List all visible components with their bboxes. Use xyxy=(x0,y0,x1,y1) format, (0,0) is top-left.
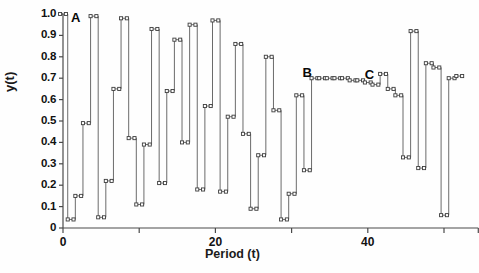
data-point-marker xyxy=(234,42,237,45)
data-point-marker xyxy=(272,109,275,112)
data-point-marker xyxy=(249,207,252,210)
data-point-marker xyxy=(158,182,161,185)
y-axis-tick-label: 0.3 xyxy=(16,157,56,169)
data-point-marker xyxy=(118,87,121,90)
data-point-marker xyxy=(240,42,243,45)
data-point-marker xyxy=(432,66,435,69)
data-point-marker xyxy=(340,77,343,80)
data-point-marker xyxy=(278,109,281,112)
data-point-marker xyxy=(203,104,206,107)
data-point-marker xyxy=(400,94,403,97)
data-point-marker xyxy=(280,218,283,221)
data-point-marker xyxy=(219,190,222,193)
data-point-marker xyxy=(287,192,290,195)
annotation-label-b: B xyxy=(302,65,311,80)
data-point-marker xyxy=(74,194,77,197)
data-point-marker xyxy=(247,132,250,135)
data-point-marker xyxy=(356,79,359,82)
data-point-marker xyxy=(232,115,235,118)
data-point-marker xyxy=(438,66,441,69)
axes-group xyxy=(59,14,478,233)
series-stepline xyxy=(60,14,462,219)
data-point-marker xyxy=(156,27,159,30)
data-point-marker xyxy=(120,17,123,20)
y-axis-tick-label: 0.9 xyxy=(16,28,56,40)
data-point-marker xyxy=(392,87,395,90)
data-point-marker xyxy=(318,77,321,80)
data-point-marker xyxy=(308,169,311,172)
data-point-marker xyxy=(135,203,138,206)
chart-plot-area xyxy=(0,0,479,273)
data-point-marker xyxy=(264,55,267,58)
data-point-marker xyxy=(141,203,144,206)
data-point-marker xyxy=(301,94,304,97)
y-axis-tick-label: 0.6 xyxy=(16,93,56,105)
x-axis-tick-label: 40 xyxy=(348,235,388,249)
data-point-marker xyxy=(417,167,420,170)
x-axis-tick-label: 0 xyxy=(43,235,83,249)
data-point-marker xyxy=(66,218,69,221)
y-axis-tick-label: 0.4 xyxy=(16,135,56,147)
data-point-marker xyxy=(424,62,427,65)
data-point-marker xyxy=(384,72,387,75)
data-point-marker xyxy=(348,79,351,82)
data-point-marker xyxy=(211,19,214,22)
data-point-marker xyxy=(59,12,62,15)
data-series-group xyxy=(59,12,464,221)
data-point-marker xyxy=(95,15,98,18)
data-point-marker xyxy=(217,19,220,22)
data-point-marker xyxy=(440,214,443,217)
y-axis-tick-label: 0 xyxy=(16,221,56,233)
data-point-marker xyxy=(165,89,168,92)
data-point-marker xyxy=(179,38,182,41)
data-point-marker xyxy=(255,207,258,210)
data-point-marker xyxy=(262,154,265,157)
y-axis-title: y(t) xyxy=(2,72,17,92)
y-axis-tick-label: 0.1 xyxy=(16,200,56,212)
data-point-marker xyxy=(224,190,227,193)
data-point-marker xyxy=(173,38,176,41)
data-point-marker xyxy=(104,179,107,182)
y-axis-tick-label: 0.2 xyxy=(16,178,56,190)
data-point-marker xyxy=(64,12,67,15)
data-point-marker xyxy=(80,194,83,197)
data-point-marker xyxy=(209,104,212,107)
data-point-marker xyxy=(171,89,174,92)
chart-figure: 00.10.20.30.40.50.60.70.80.91.0 02040 AB… xyxy=(0,0,479,273)
data-point-marker xyxy=(194,23,197,26)
data-point-marker xyxy=(407,156,410,159)
data-point-marker xyxy=(87,122,90,125)
data-point-marker xyxy=(112,87,115,90)
data-point-marker xyxy=(295,94,298,97)
data-point-marker xyxy=(142,143,145,146)
data-point-marker xyxy=(333,77,336,80)
data-point-marker xyxy=(394,94,397,97)
data-point-marker xyxy=(270,55,273,58)
y-axis-tick-label: 1.0 xyxy=(16,7,56,19)
data-point-marker xyxy=(163,182,166,185)
data-point-marker xyxy=(148,143,151,146)
y-axis-tick-label: 0.7 xyxy=(16,71,56,83)
data-point-marker xyxy=(180,141,183,144)
data-point-marker xyxy=(447,77,450,80)
data-point-marker xyxy=(89,15,92,18)
data-point-marker xyxy=(377,83,380,86)
y-axis-tick-label: 0.8 xyxy=(16,50,56,62)
data-point-marker xyxy=(196,188,199,191)
data-point-marker xyxy=(386,87,389,90)
data-point-marker xyxy=(102,216,105,219)
data-point-marker xyxy=(379,72,382,75)
data-point-marker xyxy=(422,167,425,170)
data-point-marker xyxy=(325,77,328,80)
data-point-marker xyxy=(150,27,153,30)
data-point-marker xyxy=(302,169,305,172)
data-point-marker xyxy=(257,154,260,157)
data-point-marker xyxy=(97,216,100,219)
y-axis-tick-label: 0.5 xyxy=(16,114,56,126)
data-point-marker xyxy=(409,30,412,33)
data-point-marker xyxy=(188,23,191,26)
annotation-label-a: A xyxy=(71,10,80,25)
data-point-marker xyxy=(226,115,229,118)
data-point-marker xyxy=(81,122,84,125)
data-point-marker xyxy=(202,188,205,191)
